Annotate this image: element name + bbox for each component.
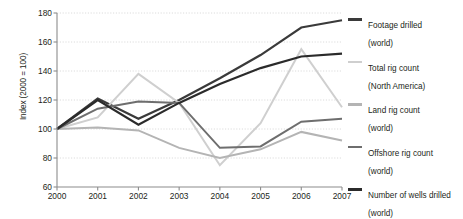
line-chart-svg [57, 13, 342, 187]
x-tick-label: 2006 [278, 192, 324, 200]
x-tick-label: 2003 [156, 192, 202, 200]
x-tick-label: 2001 [75, 192, 121, 200]
legend-label: Land rig count (world) [368, 106, 420, 133]
legend-item-4[interactable]: Number of wells drilled (world) [348, 184, 463, 219]
legend-swatch-icon [348, 61, 362, 64]
legend-item-3[interactable]: Offshore rig count (world) [348, 142, 463, 178]
legend-swatch-icon [348, 188, 362, 191]
y-tick-label: 100 [12, 125, 52, 133]
y-tick-label: 160 [12, 38, 52, 46]
plot-area [57, 13, 342, 187]
legend-label: Footage drilled (world) [368, 21, 422, 48]
legend-swatch-icon [348, 18, 362, 21]
series-line-2 [57, 128, 342, 158]
series-line-4 [57, 54, 342, 129]
legend-label: Number of wells drilled (world) [368, 191, 451, 218]
x-tick-label: 2000 [34, 192, 80, 200]
y-tick-label: 60 [12, 183, 52, 191]
x-tick-label: 2004 [197, 192, 243, 200]
x-axis-tick-labels: 20002001200220032004200520062007 [57, 192, 342, 204]
legend-item-0[interactable]: Footage drilled (world) [348, 14, 463, 50]
y-tick-label: 140 [12, 67, 52, 75]
x-tick-label: 2002 [115, 192, 161, 200]
y-tick-label: 120 [12, 96, 52, 104]
y-tick-label: 180 [12, 9, 52, 17]
series-line-0 [57, 20, 342, 129]
chart-figure: Index (2000 = 100) 6080100120140160180 2… [0, 0, 463, 219]
legend-item-1[interactable]: Total rig count (North America) [348, 57, 463, 93]
x-tick-label: 2005 [238, 192, 284, 200]
legend-label: Total rig count (North America) [368, 64, 425, 91]
legend-swatch-icon [348, 103, 362, 106]
y-tick-label: 80 [12, 154, 52, 162]
legend-item-2[interactable]: Land rig count (world) [348, 99, 463, 135]
y-axis-tick-labels: 6080100120140160180 [10, 13, 52, 187]
series-line-1 [57, 49, 342, 165]
legend-swatch-icon [348, 146, 362, 149]
series-line-3 [57, 101, 342, 147]
legend-label: Offshore rig count (world) [368, 149, 433, 176]
chart-legend: Footage drilled (world)Total rig count (… [348, 14, 463, 219]
